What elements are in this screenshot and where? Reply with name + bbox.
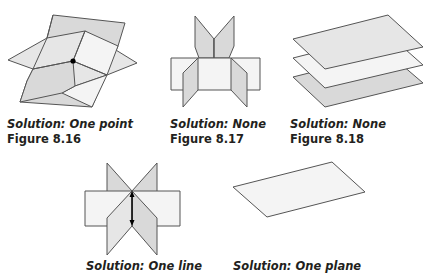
figure-label-8-16: Figure 8.16 <box>7 132 81 146</box>
figure-8-18-diagram <box>293 15 423 107</box>
caption-solution-none-2: Solution: None <box>290 117 386 131</box>
caption-solution-one-point: Solution: One point <box>7 117 133 131</box>
figure-label-8-18: Figure 8.18 <box>290 132 364 146</box>
caption-solution-one-line: Solution: One line <box>86 259 202 273</box>
figure-one-point-diagram <box>8 15 137 107</box>
figure-one-plane-diagram <box>233 162 365 217</box>
figure-8-17-diagram <box>171 16 260 107</box>
figure-one-line-diagram <box>85 163 180 255</box>
caption-solution-none-1: Solution: None <box>170 117 266 131</box>
caption-solution-one-plane: Solution: One plane <box>233 259 361 273</box>
intersection-point <box>70 58 75 63</box>
figure-label-8-17: Figure 8.17 <box>170 132 244 146</box>
